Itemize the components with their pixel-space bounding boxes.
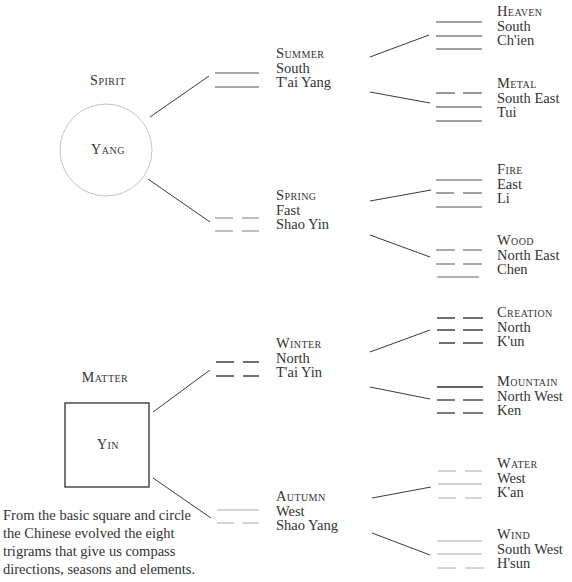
season-direction: West bbox=[276, 504, 338, 519]
connector-yang-summer bbox=[150, 76, 209, 117]
season-spring: Spring Fast Shao Yin bbox=[276, 188, 329, 232]
trigram-name: Ch'ien bbox=[497, 33, 542, 48]
trigram-wood: Wood North East Chen bbox=[497, 233, 559, 277]
connector-autumn-water bbox=[372, 487, 431, 498]
season-name: T'ai Yang bbox=[276, 75, 331, 90]
trigram-name: Tui bbox=[497, 105, 559, 120]
connector-yang-spring bbox=[148, 179, 210, 222]
season-direction: Fast bbox=[276, 203, 329, 218]
metal-lines bbox=[436, 93, 482, 121]
mountain-lines bbox=[437, 387, 483, 413]
caption-line: the Chinese evolved the eight bbox=[3, 524, 195, 542]
wood-lines bbox=[436, 250, 482, 277]
trigram-fire: Fire East Li bbox=[497, 162, 523, 206]
caption: From the basic square and circle the Chi… bbox=[3, 506, 195, 578]
season-summer: Summer South T'ai Yang bbox=[276, 46, 331, 90]
trigram-name: Li bbox=[497, 191, 523, 206]
season-direction: South bbox=[276, 61, 331, 76]
trigram-name: H'sun bbox=[497, 556, 563, 571]
connector-autumn-wind bbox=[372, 533, 430, 555]
connector-winter-creation bbox=[370, 330, 430, 352]
trigram-metal: Metal South East Tui bbox=[497, 76, 559, 120]
root-connectors bbox=[148, 76, 211, 518]
season-connectors bbox=[370, 35, 431, 555]
season-winter: Winter North T'ai Yin bbox=[276, 336, 322, 380]
water-lines bbox=[438, 471, 482, 498]
connector-winter-mountain bbox=[370, 387, 430, 399]
trigram-title: Creation bbox=[497, 305, 553, 320]
season-direction: North bbox=[276, 351, 322, 366]
caption-line: From the basic square and circle bbox=[3, 506, 195, 524]
trigram-heaven: Heaven South Ch'ien bbox=[497, 4, 542, 48]
trigram-title: Wind bbox=[497, 527, 563, 542]
trigram-water: Water West K'an bbox=[497, 456, 538, 500]
trigram-direction: West bbox=[497, 471, 538, 486]
trigram-direction: South West bbox=[497, 542, 563, 557]
trigram-title: Wood bbox=[497, 233, 559, 248]
trigram-name: K'un bbox=[497, 334, 553, 349]
caption-line: trigrams that give us compass bbox=[3, 542, 195, 560]
season-title: Spring bbox=[276, 188, 329, 203]
trigram-direction: South bbox=[497, 19, 542, 34]
trigram-wind: Wind South West H'sun bbox=[497, 527, 563, 571]
wind-lines bbox=[437, 541, 484, 568]
trigram-direction: North East bbox=[497, 248, 559, 263]
yin-label: Yin bbox=[76, 437, 140, 453]
trigram-direction: North bbox=[497, 320, 553, 335]
trigram-title: Fire bbox=[497, 162, 523, 177]
season-name: Shao Yang bbox=[276, 518, 338, 533]
connector-yin-winter bbox=[153, 370, 210, 412]
spirit-heading: Spirit bbox=[76, 73, 140, 89]
trigram-name: K'an bbox=[497, 485, 538, 500]
heaven-lines bbox=[436, 22, 482, 49]
connector-spring-wood bbox=[370, 235, 430, 257]
trigram-name: Ken bbox=[497, 403, 563, 418]
season-name: T'ai Yin bbox=[276, 365, 322, 380]
spring-lines bbox=[215, 218, 259, 231]
trigram-title: Water bbox=[497, 456, 538, 471]
connector-summer-metal bbox=[370, 92, 430, 103]
season-title: Winter bbox=[276, 336, 322, 351]
trigram-creation: Creation North K'un bbox=[497, 305, 553, 349]
connector-spring-fire bbox=[370, 190, 431, 201]
trigram-title: Metal bbox=[497, 76, 559, 91]
trigram-direction: East bbox=[497, 177, 523, 192]
trigram-direction: North West bbox=[497, 389, 563, 404]
connector-summer-heaven bbox=[370, 35, 429, 57]
creation-lines bbox=[437, 318, 483, 343]
winter-lines bbox=[216, 362, 259, 376]
fire-lines bbox=[436, 180, 482, 207]
matter-heading: Matter bbox=[68, 370, 142, 386]
trigram-mountain: Mountain North West Ken bbox=[497, 374, 563, 418]
trigram-name: Chen bbox=[497, 262, 559, 277]
trigram-title: Mountain bbox=[497, 374, 563, 389]
season-name: Shao Yin bbox=[276, 217, 329, 232]
season-autumn: Autumn West Shao Yang bbox=[276, 489, 338, 533]
summer-lines bbox=[215, 73, 259, 87]
season-title: Autumn bbox=[276, 489, 338, 504]
season-title: Summer bbox=[276, 46, 331, 61]
trigram-title: Heaven bbox=[497, 4, 542, 19]
caption-line: directions, seasons and elements. bbox=[3, 560, 195, 578]
autumn-lines bbox=[217, 510, 259, 523]
trigram-direction: South East bbox=[497, 91, 559, 106]
yang-label: Yang bbox=[76, 142, 140, 158]
